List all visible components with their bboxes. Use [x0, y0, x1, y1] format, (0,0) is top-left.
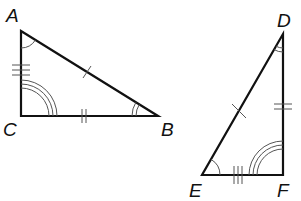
triangle-def: D E F: [189, 10, 292, 201]
vertex-label-d: D: [277, 10, 291, 31]
vertex-label-a: A: [5, 5, 19, 26]
triangle-abc: A B C: [3, 5, 174, 140]
vertex-label-e: E: [189, 180, 202, 201]
angle-f-arcs: [249, 141, 283, 175]
angle-c-arcs: [21, 80, 57, 116]
side-ab-tick: [83, 66, 91, 78]
triangle-def-outline: [202, 34, 283, 175]
congruent-triangles-diagram: A B C D E: [0, 0, 301, 201]
side-de-tick: [232, 104, 246, 118]
vertex-label-c: C: [3, 119, 17, 140]
vertex-label-f: F: [277, 180, 290, 201]
vertex-label-b: B: [161, 119, 174, 140]
angle-a-arc: [21, 40, 35, 48]
triangle-abc-outline: [21, 31, 158, 116]
angle-e-arc: [211, 159, 220, 175]
